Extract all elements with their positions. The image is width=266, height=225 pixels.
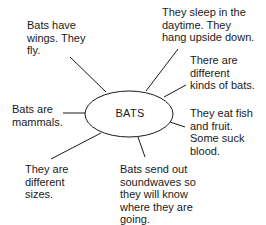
connector-sizes xyxy=(51,133,101,159)
center-label: BATS xyxy=(110,107,150,119)
node-wings: Bats have wings. They fly. xyxy=(27,19,86,57)
connector-kinds xyxy=(164,85,186,97)
node-kinds: There are different kinds of bats. xyxy=(190,54,255,92)
node-eat: They eat fish and fruit. Some suck blood… xyxy=(190,107,253,157)
connector-sleep xyxy=(146,49,178,91)
node-sizes: They are different sizes. xyxy=(25,163,68,201)
connector-soundwaves xyxy=(138,137,145,157)
connector-eat xyxy=(170,122,185,127)
node-soundwaves: Bats send out soundwaves so they will kn… xyxy=(120,163,196,225)
connector-wings xyxy=(70,57,106,92)
node-mammals: Bats are mammals. xyxy=(12,103,63,128)
node-sleep: They sleep in the daytime. They hang ups… xyxy=(162,6,254,44)
